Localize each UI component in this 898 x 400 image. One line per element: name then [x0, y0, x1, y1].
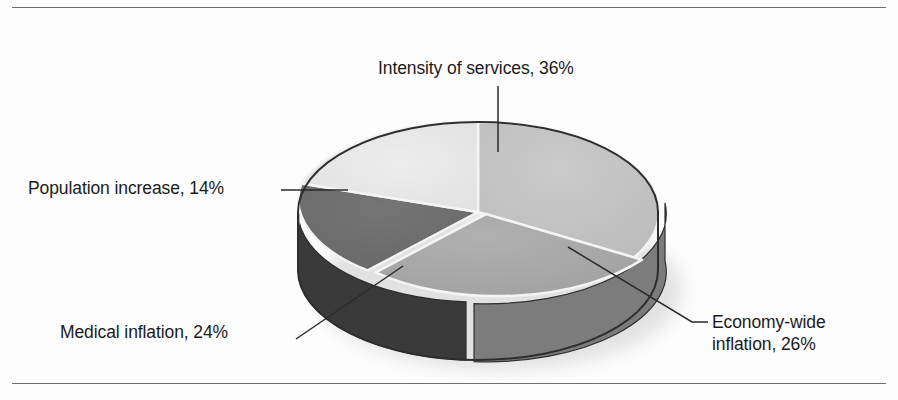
slice-label-medical-inflation: Medical inflation, 24%: [60, 322, 228, 344]
pie-chart-figure: Intensity of services, 36% Population in…: [0, 0, 898, 400]
slice-label-economy-line2: inflation, 26%: [712, 334, 816, 354]
slice-label-intensity-of-services: Intensity of services, 36%: [378, 58, 574, 80]
plot-area: Intensity of services, 36% Population in…: [0, 0, 898, 400]
slice-label-economy-wide-inflation: Economy-wide inflation, 26%: [712, 312, 882, 356]
slice-label-population-increase: Population increase, 14%: [28, 178, 224, 200]
slice-label-economy-line1: Economy-wide: [712, 312, 826, 332]
